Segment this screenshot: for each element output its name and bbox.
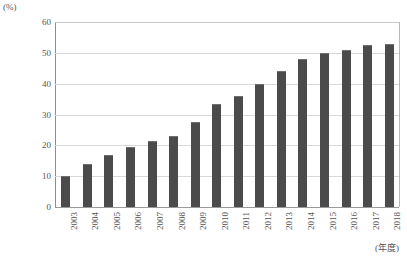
x-axis-tick-label: 2005: [113, 212, 122, 256]
bar: [385, 44, 394, 207]
bar: [255, 84, 264, 207]
y-axis-tick-label: 10: [11, 172, 51, 181]
x-axis-tick-label: 2012: [264, 212, 273, 256]
bar: [191, 122, 200, 207]
y-axis-tick-label: 60: [11, 18, 51, 27]
x-axis-tick-label: 2009: [199, 212, 208, 256]
x-axis-tick-label: 2003: [70, 212, 79, 256]
x-axis-tick-label: 2018: [393, 212, 402, 256]
y-axis-tick-label: 0: [11, 203, 51, 212]
x-axis-tick-label: 2006: [134, 212, 143, 256]
bar: [212, 104, 221, 207]
bar-chart: (%) (年度) 0102030405060200320042005200620…: [0, 0, 407, 257]
plot-area: [55, 22, 400, 207]
bar: [298, 59, 307, 207]
y-axis-tick-label: 30: [11, 111, 51, 120]
y-axis-unit-label: (%): [3, 2, 17, 12]
bar: [342, 50, 351, 207]
bar: [126, 147, 135, 207]
x-axis-tick-label: 2004: [91, 212, 100, 256]
bar: [320, 53, 329, 207]
bar: [83, 164, 92, 207]
bar: [104, 155, 113, 207]
x-axis-tick-label: 2017: [372, 212, 381, 256]
x-axis-tick-label: 2010: [221, 212, 230, 256]
x-axis-tick-label: 2015: [329, 212, 338, 256]
x-axis-tick-label: 2013: [285, 212, 294, 256]
y-axis-tick-label: 20: [11, 141, 51, 150]
bar: [234, 96, 243, 207]
y-axis-tick-label: 50: [11, 49, 51, 58]
bar: [61, 176, 70, 207]
gridline: [55, 22, 399, 23]
bar: [148, 141, 157, 207]
x-axis-tick-label: 2016: [350, 212, 359, 256]
x-axis-tick-label: 2007: [156, 212, 165, 256]
y-axis-tick-label: 40: [11, 80, 51, 89]
bar: [363, 45, 372, 207]
x-axis-tick-label: 2014: [307, 212, 316, 256]
gridline: [55, 207, 399, 208]
bar: [169, 136, 178, 207]
x-axis-tick-label: 2008: [178, 212, 187, 256]
x-axis-tick-label: 2011: [242, 212, 251, 256]
bar: [277, 71, 286, 207]
